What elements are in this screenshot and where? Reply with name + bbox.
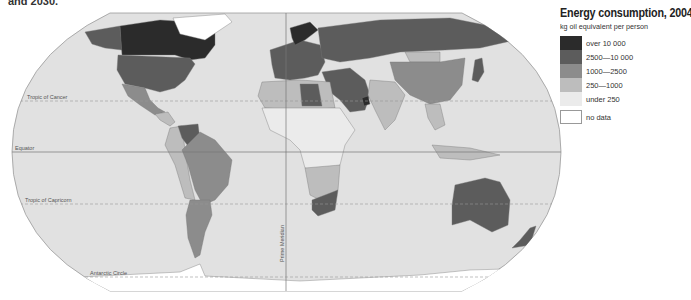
region-mongolia[interactable] — [405, 52, 440, 62]
legend-swatch — [560, 78, 582, 92]
legend-label: no data — [586, 113, 611, 122]
legend-label: 1000—2500 — [586, 67, 627, 76]
legend-item: 250—1000 — [560, 78, 691, 92]
legend-label: 2500—10 000 — [586, 53, 633, 62]
legend-title: Energy consumption, 2004 — [560, 6, 673, 20]
legend-label: 250—1000 — [586, 81, 623, 90]
prime-meridian-label: Prime Meridian — [279, 225, 285, 262]
legend-swatch — [560, 36, 582, 50]
legend-swatch — [560, 50, 582, 64]
region-north-africa[interactable] — [258, 80, 335, 110]
legend-list: over 10 000 2500—10 000 1000—2500 250—10… — [560, 36, 691, 124]
legend-subtitle: kg oil equivalent per person — [560, 22, 678, 31]
legend-label: over 10 000 — [586, 39, 626, 48]
tropic-of-cancer-label: Tropic of Cancer — [27, 94, 68, 100]
legend-item: 1000—2500 — [560, 64, 691, 78]
legend-swatch-no-data — [560, 110, 582, 124]
legend-item: 2500—10 000 — [560, 50, 691, 64]
antarctic-circle-label: Antarctic Circle — [90, 270, 127, 276]
legend-swatch — [560, 92, 582, 106]
tropic-of-capricorn-label: Tropic of Capricorn — [25, 197, 72, 203]
legend-item: under 250 — [560, 92, 691, 106]
legend: Energy consumption, 2004 kg oil equivale… — [560, 6, 691, 124]
legend-label: under 250 — [586, 95, 620, 104]
region-libya[interactable] — [300, 84, 322, 106]
legend-item-no-data: no data — [560, 110, 691, 124]
equator-label: Equator — [15, 145, 34, 151]
legend-swatch — [560, 64, 582, 78]
legend-item: over 10 000 — [560, 36, 691, 50]
